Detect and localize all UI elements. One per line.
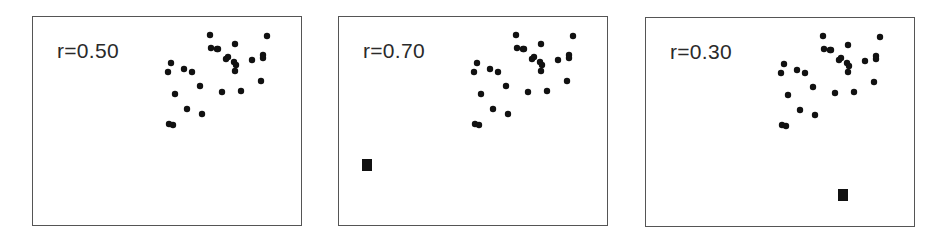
data-point [478, 91, 484, 97]
data-point [219, 89, 225, 95]
data-point [172, 91, 178, 97]
data-point [873, 56, 879, 62]
data-point [781, 61, 787, 67]
data-point [794, 67, 800, 73]
correlation-label: r=0.30 [670, 40, 732, 64]
data-point [570, 33, 576, 39]
data-point [490, 106, 496, 112]
data-point [521, 46, 527, 52]
data-point [474, 60, 480, 66]
data-point [820, 33, 826, 39]
data-point [249, 57, 255, 63]
data-point [197, 83, 203, 89]
data-point [199, 111, 205, 117]
data-point [821, 46, 827, 52]
data-point [810, 84, 816, 90]
scatter-panel-r030: r=0.30 [645, 17, 915, 227]
data-point [566, 55, 572, 61]
data-point [544, 88, 550, 94]
data-point [845, 69, 851, 75]
data-point [812, 112, 818, 118]
data-point [258, 78, 264, 84]
data-point [845, 42, 851, 48]
data-point [225, 54, 231, 60]
data-point [832, 90, 838, 96]
data-point [802, 70, 808, 76]
data-point [513, 32, 519, 38]
data-point [539, 62, 545, 68]
data-point [170, 122, 176, 128]
data-point [851, 89, 857, 95]
data-point [215, 46, 221, 52]
data-point [184, 106, 190, 112]
data-point [207, 32, 213, 38]
data-point [525, 89, 531, 95]
data-point [797, 107, 803, 113]
data-point [476, 122, 482, 128]
data-point [238, 88, 244, 94]
data-point [487, 66, 493, 72]
data-point [505, 111, 511, 117]
data-point [471, 69, 477, 75]
scatter-panel-r070: r=0.70 [338, 16, 608, 226]
data-point [785, 92, 791, 98]
data-point [260, 55, 266, 61]
data-point [168, 60, 174, 66]
data-point [846, 63, 852, 69]
data-point [538, 41, 544, 47]
data-point [862, 58, 868, 64]
data-point [871, 79, 877, 85]
correlation-label: r=0.70 [363, 39, 425, 63]
data-point [514, 45, 520, 51]
correlation-label: r=0.50 [57, 39, 119, 63]
data-point [555, 57, 561, 63]
data-point [538, 68, 544, 74]
data-point [503, 83, 509, 89]
scatter-panel-r050: r=0.50 [32, 16, 302, 226]
data-point [778, 70, 784, 76]
data-point [181, 66, 187, 72]
data-point [232, 68, 238, 74]
data-point [264, 33, 270, 39]
data-point [232, 41, 238, 47]
data-point [233, 62, 239, 68]
data-point [564, 78, 570, 84]
data-point [828, 47, 834, 53]
data-point [165, 69, 171, 75]
data-point [208, 45, 214, 51]
data-point [838, 55, 844, 61]
outlier-point [838, 189, 848, 201]
outlier-point [362, 159, 372, 171]
data-point [877, 34, 883, 40]
data-point [495, 69, 501, 75]
data-point [531, 54, 537, 60]
data-point [189, 69, 195, 75]
data-point [783, 123, 789, 129]
